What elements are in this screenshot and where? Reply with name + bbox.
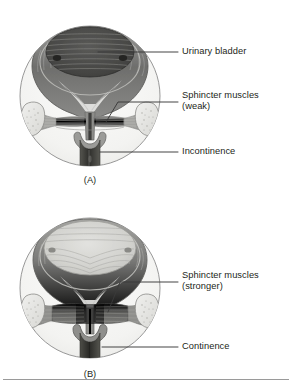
label-incontinence: Incontinence — [182, 146, 235, 157]
label-sphincter-muscles-weak-line1: Sphincter muscles — [182, 90, 259, 101]
label-urinary-bladder: Urinary bladder — [182, 46, 246, 57]
panel-b-illustration — [0, 192, 292, 388]
pelvic-floor-strong-b — [38, 304, 142, 325]
label-continence: Continence — [182, 341, 230, 352]
label-sphincter-muscles-stronger-line2: (stronger) — [182, 281, 223, 292]
bladder-lumen-b — [44, 221, 136, 275]
label-sphincter-muscles-stronger-line1: Sphincter muscles — [182, 270, 259, 281]
urethra-a — [85, 112, 95, 140]
caption-panel-a: (A) — [60, 175, 120, 185]
caption-panel-b: (B) — [60, 369, 120, 379]
label-sphincter-muscles-weak-line2: (weak) — [182, 101, 210, 112]
panel-b: Sphincter muscles (stronger) Continence … — [0, 192, 292, 388]
footer-divider — [3, 379, 289, 380]
figure-urinary-continence: Urinary bladder Sphincter muscles (weak)… — [0, 0, 292, 388]
panel-a: Urinary bladder Sphincter muscles (weak)… — [0, 0, 292, 196]
